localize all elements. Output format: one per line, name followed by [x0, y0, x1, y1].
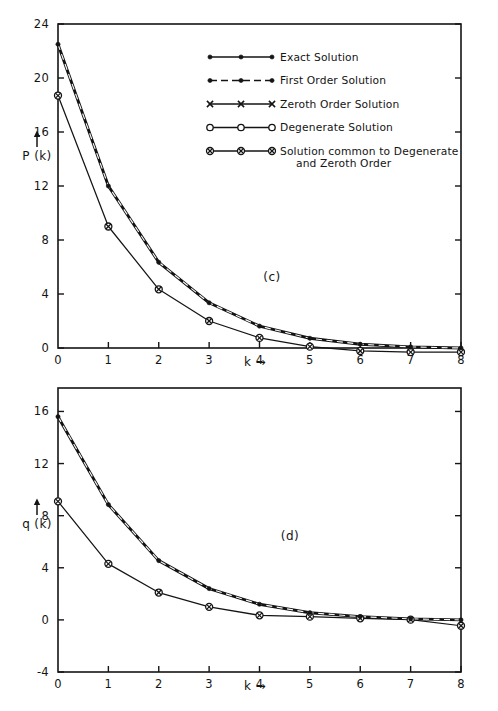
legend-label: Degenerate Solution [280, 121, 393, 134]
data-point-common [105, 560, 112, 567]
y-tick-label: -4 [37, 665, 49, 679]
data-point-exact [56, 42, 60, 46]
legend-marker [269, 124, 275, 130]
data-point-common [206, 603, 213, 610]
data-point-common [407, 349, 414, 356]
data-point-common [55, 498, 62, 505]
x-tick-label: 6 [356, 677, 364, 691]
data-point-common [306, 343, 313, 350]
legend-marker [238, 124, 244, 130]
x-tick-label: 5 [306, 677, 314, 691]
data-point-common [55, 92, 62, 99]
legend-label: First Order Solution [280, 74, 386, 87]
x-tick-label: 5 [306, 353, 314, 367]
y-axis-title: q (k) [22, 517, 52, 531]
data-point-common [155, 589, 162, 596]
data-point-exact [157, 260, 161, 264]
data-point-exact [207, 301, 211, 305]
x-tick-label: 2 [155, 677, 163, 691]
y-tick-label: 4 [41, 287, 49, 301]
y-tick-label: 4 [41, 561, 49, 575]
data-point-common [458, 622, 465, 629]
legend-marker [270, 55, 274, 59]
data-point-common [256, 334, 263, 341]
y-tick-label: 12 [34, 179, 49, 193]
data-point-exact [106, 184, 110, 188]
y-tick-label: 20 [34, 71, 49, 85]
data-point-exact [308, 336, 312, 340]
x-tick-label: 1 [105, 677, 113, 691]
x-tick-label: 3 [205, 353, 213, 367]
x-tick-label: 2 [155, 353, 163, 367]
y-tick-label: 24 [34, 17, 49, 31]
figure-root: 04812162024012345678P (k)k →(c) -4048121… [0, 0, 498, 711]
x-tick-label: 3 [205, 677, 213, 691]
y-tick-label: 0 [41, 341, 49, 355]
legend-marker [239, 55, 243, 59]
legend-marker [269, 148, 276, 155]
legend-label: Exact Solution [280, 51, 359, 64]
data-point-exact [157, 559, 161, 563]
x-axis-title: k → [244, 355, 266, 369]
y-axis-title: P (k) [22, 149, 51, 163]
legend-label: Zeroth Order Solution [280, 98, 399, 111]
figure-svg: 04812162024012345678P (k)k →(c) -4048121… [0, 0, 498, 711]
legend-marker [239, 78, 243, 82]
data-point-exact [409, 345, 413, 349]
legend-marker [208, 78, 212, 82]
legend-marker [208, 55, 212, 59]
y-tick-label: 0 [41, 613, 49, 627]
data-point-exact [358, 342, 362, 346]
data-point-exact [358, 615, 362, 619]
x-tick-label: 0 [54, 353, 62, 367]
y-tick-label: 16 [34, 404, 49, 418]
y-tick-label: 8 [41, 233, 49, 247]
data-point-common [256, 612, 263, 619]
data-point-exact [409, 617, 413, 621]
legend-label-line2: and Zeroth Order [296, 157, 392, 170]
data-point-exact [207, 587, 211, 591]
x-tick-label: 8 [457, 677, 465, 691]
x-tick-label: 0 [54, 677, 62, 691]
data-point-common [105, 223, 112, 230]
data-point-common [155, 286, 162, 293]
legend-marker [238, 148, 245, 155]
data-point-exact [459, 618, 463, 622]
y-tick-label: 12 [34, 457, 49, 471]
data-point-exact [106, 502, 110, 506]
x-axis-title: k → [244, 679, 266, 693]
data-point-exact [257, 324, 261, 328]
data-point-common [357, 347, 364, 354]
data-point-exact [56, 415, 60, 419]
panel-label: (d) [281, 529, 299, 543]
panel-label: (c) [263, 270, 280, 284]
x-tick-label: 7 [407, 677, 415, 691]
data-point-exact [459, 346, 463, 350]
data-point-common [206, 318, 213, 325]
legend-marker [207, 124, 213, 130]
data-point-exact [308, 611, 312, 615]
legend-marker [207, 148, 214, 155]
x-tick-label: 1 [105, 353, 113, 367]
legend-marker [270, 78, 274, 82]
data-point-exact [257, 602, 261, 606]
